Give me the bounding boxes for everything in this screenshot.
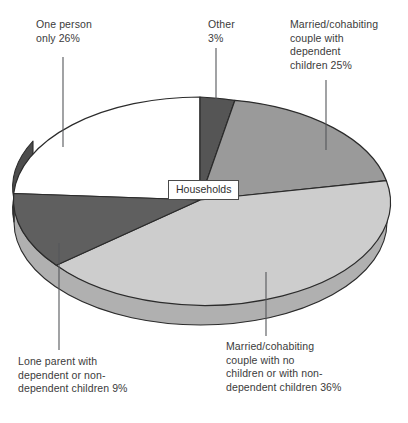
- slice-label-other: Other 3%: [208, 18, 278, 45]
- slice-label-married-dependent-children: Married/cohabiting couple with dependent…: [290, 18, 408, 72]
- slice-label-married-no-dependent-children: Married/cohabiting couple with no childr…: [226, 340, 376, 394]
- pie-top-face: [13, 97, 390, 305]
- pie-chart: One person only 26% Other 3% Married/coh…: [0, 0, 408, 423]
- slice-label-one-person-only: One person only 26%: [36, 18, 156, 45]
- chart-center-label: Households: [168, 180, 239, 200]
- slice-label-lone-parent: Lone parent with dependent or non- depen…: [18, 355, 158, 396]
